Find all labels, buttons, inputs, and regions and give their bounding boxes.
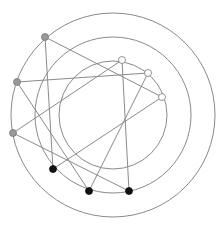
node-black-b1: [50, 166, 57, 173]
node-black-b3: [126, 188, 133, 195]
edge-g3-b3: [13, 133, 129, 191]
edge-g3-w1: [13, 60, 122, 133]
node-gray-g1: [42, 34, 49, 41]
edge-g2-w2: [17, 73, 148, 82]
edge-w2-b2: [89, 73, 148, 191]
node-black-b2: [86, 188, 93, 195]
circle-outer: [11, 13, 215, 217]
circle-inner: [59, 61, 167, 169]
node-white-w2: [145, 70, 152, 77]
node-gray-g2: [14, 79, 21, 86]
circle-middle: [35, 37, 191, 193]
concentric-circles: [11, 13, 215, 217]
edge-g1-w3: [45, 37, 162, 97]
node-gray-g3: [10, 130, 17, 137]
node-white-w3: [159, 94, 166, 101]
edge-g2-b2: [17, 82, 89, 191]
radial-graph-diagram: [0, 0, 224, 227]
node-white-w1: [119, 57, 126, 64]
